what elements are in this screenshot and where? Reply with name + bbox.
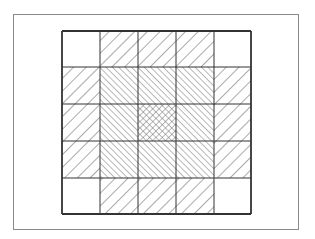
grid-cell-dense (100, 141, 138, 178)
grid-cell-sparse (138, 178, 176, 214)
grid-cell-blank (62, 31, 100, 67)
hatched-grid-diagram (0, 0, 315, 239)
grid-cell-sparse (62, 67, 100, 104)
grid-cell-sparse (62, 141, 100, 178)
grid-cell-dense (176, 141, 214, 178)
grid-cell-sparse (214, 104, 251, 141)
grid-cell-sparse (138, 31, 176, 67)
grid-cell-dense (100, 104, 138, 141)
grid-cell-dense (138, 141, 176, 178)
grid-cell-dense (176, 67, 214, 104)
grid-cell-blank (214, 178, 251, 214)
grid-cells (62, 31, 251, 214)
grid-cell-sparse (214, 67, 251, 104)
grid-cell-sparse (214, 141, 251, 178)
grid-cell-blank (62, 178, 100, 214)
grid-cell-sparse (100, 178, 138, 214)
grid-cell-sparse (176, 178, 214, 214)
grid-cell-sparse (176, 31, 214, 67)
grid-cell-cross (138, 104, 176, 141)
grid-cell-sparse (100, 31, 138, 67)
grid-cell-dense (100, 67, 138, 104)
grid-cell-sparse (62, 104, 100, 141)
grid-cell-dense (176, 104, 214, 141)
grid-cell-dense (138, 67, 176, 104)
grid-cell-blank (214, 31, 251, 67)
